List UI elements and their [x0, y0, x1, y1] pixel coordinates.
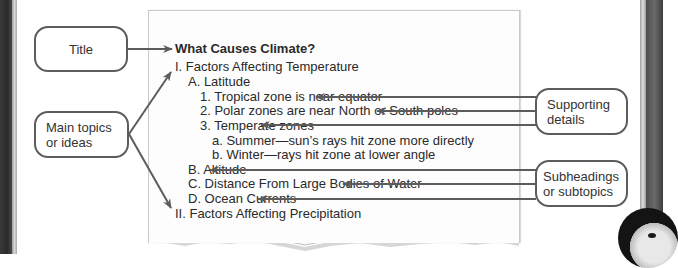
arrow-main-topic-II — [129, 134, 171, 208]
arrow-main-topic-I — [129, 72, 171, 134]
